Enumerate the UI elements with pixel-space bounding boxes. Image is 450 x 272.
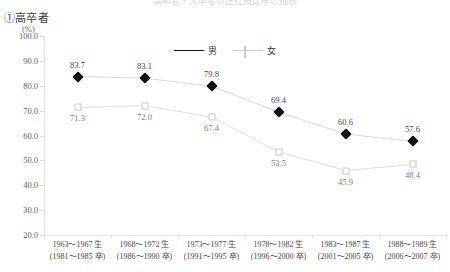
data-label-male: 79.8	[204, 69, 219, 79]
data-label-male: 83.7	[70, 60, 85, 70]
line-chart: 100.090.080.070.060.050.040.030.020.0 83…	[0, 0, 450, 272]
x-category-birth-years: 1973〜1977 生	[184, 239, 239, 251]
x-tick	[446, 235, 447, 239]
y-tick	[40, 61, 44, 62]
data-point-male[interactable]	[342, 130, 350, 138]
y-tick	[40, 210, 44, 211]
data-point-male[interactable]	[141, 74, 149, 82]
data-label-male: 83.1	[137, 61, 152, 71]
y-tick-label: 50.0	[23, 155, 38, 165]
x-category-birth-years: 1968〜1972 生	[117, 239, 172, 251]
y-tick	[40, 111, 44, 112]
x-category-label: 1963〜1967 生(1981〜1985 卒)	[50, 239, 105, 263]
data-label-female: 53.5	[271, 158, 286, 168]
filled-diamond-icon	[407, 136, 418, 147]
y-tick-label: 90.0	[23, 56, 38, 66]
filled-diamond-icon	[139, 72, 150, 83]
series-line-female	[78, 106, 413, 171]
series-lines	[44, 36, 446, 235]
y-tick-label: 20.0	[23, 230, 38, 240]
data-label-male: 69.4	[271, 95, 286, 105]
y-tick	[40, 136, 44, 137]
x-category-label: 1973〜1977 生(1991〜1995 卒)	[184, 239, 239, 263]
plot-area: 100.090.080.070.060.050.040.030.020.0 83…	[44, 36, 446, 235]
x-category-graduation-years: (2001〜2005 卒)	[318, 251, 373, 263]
x-category-graduation-years: (2006〜2007 卒)	[385, 251, 440, 263]
x-category-graduation-years: (1981〜1985 卒)	[50, 251, 105, 263]
data-point-male[interactable]	[208, 82, 216, 90]
x-category-birth-years: 1963〜1967 生	[50, 239, 105, 251]
open-square-icon	[342, 167, 349, 174]
data-point-female[interactable]	[74, 104, 81, 111]
y-tick-label: 100.0	[19, 31, 38, 41]
y-tick-label: 30.0	[23, 205, 38, 215]
y-tick-label: 40.0	[23, 180, 38, 190]
data-label-female: 45.9	[338, 177, 353, 187]
x-category-birth-years: 1978〜1982 生	[251, 239, 306, 251]
x-category-label: 1978〜1982 生(1996〜2000 卒)	[251, 239, 306, 263]
open-square-icon	[208, 114, 215, 121]
open-square-icon	[141, 102, 148, 109]
data-point-male[interactable]	[74, 73, 82, 81]
x-category-birth-years: 1988〜1989 生	[385, 239, 440, 251]
y-tick	[40, 185, 44, 186]
x-category-label: 1988〜1989 生(2006〜2007 卒)	[385, 239, 440, 263]
filled-diamond-icon	[273, 106, 284, 117]
data-point-female[interactable]	[409, 161, 416, 168]
open-square-icon	[409, 161, 416, 168]
y-tick	[40, 86, 44, 87]
data-label-male: 57.6	[405, 124, 420, 134]
data-label-female: 71.3	[70, 113, 85, 123]
x-category-graduation-years: (1996〜2000 卒)	[251, 251, 306, 263]
data-point-female[interactable]	[342, 167, 349, 174]
series-line-male	[78, 77, 413, 142]
data-label-female: 48.4	[405, 170, 420, 180]
x-category-label: 1983〜1987 生(2001〜2005 卒)	[318, 239, 373, 263]
data-point-male[interactable]	[409, 137, 417, 145]
filled-diamond-icon	[340, 128, 351, 139]
open-square-icon	[275, 148, 282, 155]
open-square-icon	[74, 104, 81, 111]
filled-diamond-icon	[72, 71, 83, 82]
y-tick	[40, 160, 44, 161]
x-category-birth-years: 1983〜1987 生	[318, 239, 373, 251]
data-label-female: 67.4	[204, 123, 219, 133]
data-point-female[interactable]	[275, 148, 282, 155]
y-tick	[40, 36, 44, 37]
data-point-female[interactable]	[208, 114, 215, 121]
data-label-female: 72.0	[137, 112, 152, 122]
x-axis-category-labels: 1963〜1967 生(1981〜1985 卒)1968〜1972 生(1986…	[44, 239, 446, 271]
data-label-male: 60.6	[338, 117, 353, 127]
data-point-female[interactable]	[141, 102, 148, 109]
data-point-male[interactable]	[275, 108, 283, 116]
x-category-graduation-years: (1991〜1995 卒)	[184, 251, 239, 263]
filled-diamond-icon	[206, 81, 217, 92]
y-tick-label: 60.0	[23, 131, 38, 141]
x-category-graduation-years: (1986〜1990 卒)	[117, 251, 172, 263]
y-tick-label: 80.0	[23, 81, 38, 91]
x-category-label: 1968〜1972 生(1986〜1990 卒)	[117, 239, 172, 263]
y-tick-label: 70.0	[23, 106, 38, 116]
